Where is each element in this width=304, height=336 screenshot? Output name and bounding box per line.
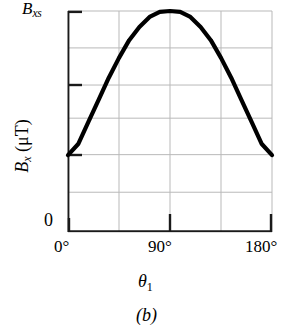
figure-b: Bxs 0 Bx (μT) 0° 90° 180° θ1 (b) <box>0 0 304 336</box>
plot-area <box>68 11 272 232</box>
y-axis-origin-label: 0 <box>44 211 53 229</box>
y-axis-max-symbol: B <box>22 0 32 18</box>
y-axis-title: Bx (μT) <box>13 91 31 201</box>
x-axis-tick-label-90: 90° <box>148 238 172 255</box>
x-axis-title: θ1 <box>138 272 153 290</box>
series-line <box>68 11 272 155</box>
x-axis-tick-label-180: 180° <box>245 238 277 255</box>
x-axis-title-subscript: 1 <box>147 280 153 294</box>
y-axis-max-label: Bxs <box>22 0 42 17</box>
x-axis-title-symbol: θ <box>138 271 147 291</box>
y-axis-title-symbol: B <box>12 162 32 173</box>
y-axis-title-units: (μT) <box>12 119 32 152</box>
figure-caption: (b) <box>136 306 157 324</box>
x-axis-tick-label-0: 0° <box>54 238 69 255</box>
y-axis-max-subscript: xs <box>32 7 41 19</box>
y-axis-title-subscript: x <box>20 156 34 161</box>
data-curve <box>68 11 272 232</box>
